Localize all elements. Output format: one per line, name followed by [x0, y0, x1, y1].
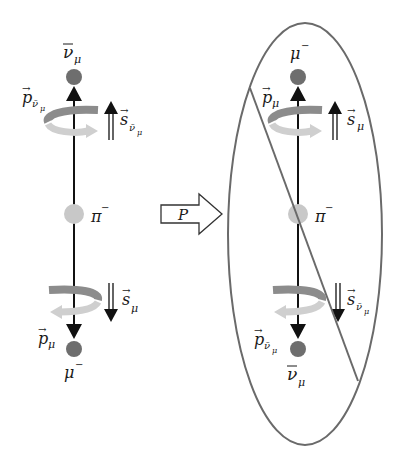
- svg-text:μ: μ: [48, 338, 55, 351]
- svg-text:μ: μ: [272, 97, 279, 110]
- left-top-spin-arrow-icon: [104, 101, 118, 140]
- svg-text:→: →: [254, 325, 263, 336]
- svg-text:μ: μ: [64, 363, 74, 382]
- left-top-momentum-label: p → ν̄ μ: [22, 83, 45, 113]
- right-top-momentum-label: p → μ: [262, 83, 279, 110]
- svg-text:μ: μ: [272, 346, 277, 355]
- svg-text:μ: μ: [290, 44, 300, 63]
- svg-text:→: →: [347, 105, 356, 116]
- right-bottom-momentum-arrowhead-icon: [290, 324, 306, 339]
- svg-text:→: →: [122, 285, 131, 296]
- svg-text:μ: μ: [357, 120, 364, 133]
- right-top-particle-muon: [290, 69, 306, 85]
- svg-text:→: →: [120, 105, 129, 116]
- left-bottom-momentum-label: p → μ: [38, 324, 55, 351]
- left-top-momentum-arrowhead-icon: [66, 86, 82, 101]
- right-top-rotation-arrow-icon: [272, 110, 322, 138]
- left-bottom-particle-muon: [66, 341, 82, 357]
- left-panel: ν μ p → ν̄ μ s → ν̄ μ π − s → μ p → μ: [22, 42, 142, 382]
- left-top-particle-label: ν μ: [63, 42, 81, 66]
- svg-text:ν̄: ν̄: [32, 98, 38, 109]
- svg-text:ν: ν: [287, 364, 297, 384]
- svg-text:μ: μ: [40, 104, 45, 113]
- svg-text:μ: μ: [364, 307, 369, 316]
- svg-text:μ: μ: [137, 128, 142, 137]
- svg-text:−: −: [301, 40, 309, 51]
- svg-text:ν̄: ν̄: [264, 340, 270, 351]
- right-center-particle-label: π −: [314, 202, 333, 226]
- svg-text:μ: μ: [131, 302, 138, 315]
- svg-text:−: −: [75, 359, 83, 370]
- parity-operator-arrow-icon: P: [161, 194, 222, 234]
- left-top-spin-label: s → ν̄ μ: [120, 105, 142, 137]
- svg-text:→: →: [347, 285, 356, 296]
- left-bottom-spin-label: s → μ: [122, 285, 138, 315]
- svg-text:ν: ν: [63, 42, 73, 62]
- left-center-particle-pion: [64, 204, 84, 224]
- left-bottom-particle-label: μ −: [64, 359, 83, 382]
- svg-text:→: →: [262, 83, 271, 94]
- right-bottom-momentum-label: p → ν̄ μ: [254, 325, 277, 355]
- left-bottom-spin-arrow-icon: [104, 283, 118, 322]
- svg-text:−: −: [325, 202, 333, 213]
- left-top-particle-antineutrino: [66, 69, 82, 85]
- left-center-particle-label: π −: [90, 202, 109, 226]
- left-bottom-momentum-arrowhead-icon: [66, 324, 82, 339]
- parity-operator-label: P: [177, 206, 189, 224]
- right-bottom-particle-antineutrino: [290, 341, 306, 357]
- right-top-spin-label: s → μ: [347, 105, 364, 133]
- svg-text:ν̄: ν̄: [356, 301, 362, 312]
- svg-text:μ: μ: [298, 376, 305, 389]
- svg-text:→: →: [22, 83, 31, 94]
- right-panel: μ − p → μ s → μ π − s → ν̄ μ p → ν̄ μ: [228, 23, 382, 445]
- right-top-spin-arrow-icon: [328, 101, 342, 140]
- svg-text:μ: μ: [74, 53, 81, 66]
- svg-text:→: →: [38, 324, 47, 335]
- svg-text:ν̄: ν̄: [129, 122, 135, 133]
- parity-diagram: ν μ p → ν̄ μ s → ν̄ μ π − s → μ p → μ: [0, 0, 396, 457]
- left-top-rotation-arrow-icon: [48, 110, 98, 138]
- right-bottom-particle-label: ν μ: [287, 364, 305, 389]
- right-bottom-spin-label: s → ν̄ μ: [347, 285, 369, 316]
- svg-text:−: −: [101, 202, 109, 213]
- right-top-particle-label: μ −: [290, 40, 309, 63]
- right-top-momentum-arrowhead-icon: [290, 86, 306, 101]
